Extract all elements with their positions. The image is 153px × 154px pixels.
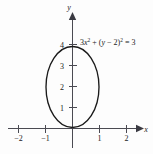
- x-tick-label-neg2: −2: [14, 134, 23, 143]
- y-tick-label-3: 3: [60, 62, 64, 71]
- y-axis-arrow-icon: [69, 12, 76, 20]
- x-axis-label: x: [143, 125, 148, 134]
- equation-annotation: 3x2 + (y − 2)2 = 3: [80, 37, 135, 47]
- x-axis-arrow-icon: [136, 125, 144, 132]
- x-tick-label-1: 1: [98, 134, 102, 143]
- equation-equals-rhs: = 3: [123, 38, 136, 47]
- cartesian-plot: −2 −1 1 2 1 2 3 4 x y 3x2 + (y − 2)2 = 3: [0, 0, 153, 154]
- equation-plus-open: + (: [90, 38, 102, 47]
- y-axis-label: y: [66, 3, 71, 12]
- y-tick-label-2: 2: [60, 83, 64, 92]
- x-tick-label-2: 2: [125, 134, 129, 143]
- equation-minus-two: − 2): [105, 38, 121, 47]
- y-tick-label-1: 1: [60, 104, 64, 113]
- graph-figure: −2 −1 1 2 1 2 3 4 x y 3x2 + (y − 2)2 = 3: [0, 0, 153, 154]
- x-tick-label-neg1: −1: [41, 134, 50, 143]
